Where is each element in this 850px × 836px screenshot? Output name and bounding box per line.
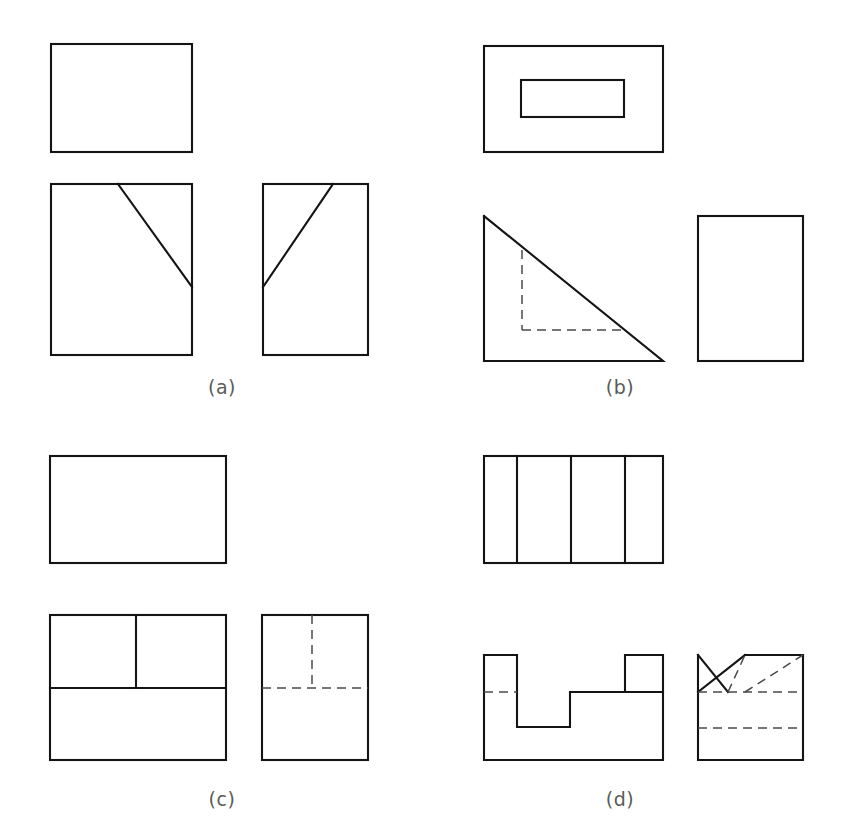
panel-d-side-diagonal-down xyxy=(698,655,728,692)
panel-b-front-triangle xyxy=(484,216,663,361)
panel-b-caption: (b) xyxy=(606,376,634,398)
panel-d-side-view xyxy=(698,655,803,760)
panel-d-top-outline xyxy=(484,456,663,563)
panel-b-top-outline xyxy=(484,46,663,152)
panel-c-side-view xyxy=(262,615,368,760)
panel-d-top-view xyxy=(484,456,663,563)
panel-b-top-view xyxy=(484,46,663,152)
panel-b-side-view xyxy=(698,216,803,361)
technical-drawing-canvas: (a) (b) xyxy=(0,0,850,836)
panel-a: (a) xyxy=(51,44,368,398)
panel-d-caption: (d) xyxy=(606,788,634,810)
panel-d-front-outline xyxy=(484,655,663,760)
panel-b: (b) xyxy=(484,46,803,398)
panel-c-front-view xyxy=(50,615,226,760)
panel-d: (d) xyxy=(484,456,803,810)
panel-a-caption: (a) xyxy=(208,376,236,398)
panel-b-top-inner-rect xyxy=(521,80,624,117)
panel-c-caption: (c) xyxy=(209,788,236,810)
panel-c-top-view xyxy=(50,456,226,563)
panel-a-front-diagonal xyxy=(118,184,192,287)
panel-a-side-view xyxy=(263,184,368,355)
panel-d-side-hidden-diagonal-right xyxy=(745,655,803,692)
panel-a-front-outline xyxy=(51,184,192,355)
panel-a-front-view xyxy=(51,184,192,355)
panel-d-side-outline xyxy=(698,655,803,760)
panel-a-top-view xyxy=(51,44,192,152)
panel-b-front-view xyxy=(484,216,663,361)
panel-c: (c) xyxy=(50,456,368,810)
panel-d-front-view xyxy=(484,655,663,760)
figure-sheet: (a) (b) xyxy=(0,0,850,836)
panel-a-side-diagonal xyxy=(263,184,333,287)
panel-d-side-diagonal-up xyxy=(698,655,745,692)
